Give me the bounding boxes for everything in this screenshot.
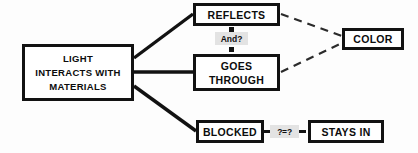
node-goes-through-line-1: GOES	[221, 59, 253, 73]
edge-main-to-blocked	[134, 86, 196, 131]
node-goes-through-line-2: THROUGH	[209, 73, 264, 87]
node-color-label: COLOR	[353, 33, 392, 45]
node-stays-in[interactable]: STAYS IN	[308, 120, 384, 143]
concept-map-diagram: LIGHT INTERACTS WITH MATERIALS REFLECTS …	[0, 0, 418, 153]
edge-goes-through-to-color	[281, 43, 342, 72]
node-reflects-label: REFLECTS	[208, 9, 266, 21]
node-blocked-label: BLOCKED	[203, 126, 257, 138]
edge-reflects-to-color	[281, 14, 342, 36]
node-reflects[interactable]: REFLECTS	[193, 3, 280, 26]
node-main-line-3: MATERIALS	[49, 80, 106, 94]
node-light-interacts-with-materials[interactable]: LIGHT INTERACTS WITH MATERIALS	[22, 44, 134, 101]
node-stays-in-label: STAYS IN	[321, 126, 370, 138]
node-color[interactable]: COLOR	[342, 28, 404, 50]
connector-dot-and-bottom	[229, 47, 234, 52]
node-goes-through[interactable]: GOES THROUGH	[193, 54, 280, 91]
node-blocked[interactable]: BLOCKED	[196, 120, 264, 143]
node-main-line-2: INTERACTS WITH	[35, 66, 120, 80]
edge-label-and[interactable]: And?	[215, 32, 248, 45]
connector-dash-equals-right	[299, 130, 306, 133]
connector-dash-equals-left	[263, 130, 270, 133]
node-main-line-1: LIGHT	[63, 52, 93, 66]
edge-label-equals[interactable]: ?=?	[270, 125, 299, 138]
edge-main-to-reflects	[134, 14, 193, 58]
